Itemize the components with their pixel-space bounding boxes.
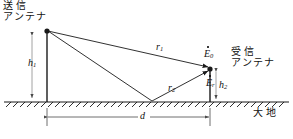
er-symbol-wrap: E bbox=[206, 78, 212, 88]
h2-subscript: 2 bbox=[224, 83, 227, 90]
rx-antenna-caption: 受信 アンテナ bbox=[231, 47, 275, 68]
e0-phasor-dot-icon bbox=[207, 46, 209, 48]
direct-ray-r1 bbox=[48, 31, 208, 67]
rx-antenna-node bbox=[207, 66, 212, 71]
r2-subscript: 2 bbox=[172, 86, 175, 93]
er-subscript: r bbox=[212, 81, 215, 88]
er-symbol: E bbox=[206, 77, 212, 88]
er-phasor-dot-icon bbox=[209, 75, 211, 77]
e0-field-label: E0 bbox=[204, 49, 213, 60]
tx-antenna-caption-line2: アンテナ bbox=[3, 12, 47, 22]
tx-antenna-node bbox=[44, 28, 49, 33]
r1-subscript: 1 bbox=[160, 45, 163, 52]
ground-hatching bbox=[6, 102, 284, 107]
r2-label: r2 bbox=[168, 83, 175, 94]
rx-antenna-caption-line2: アンテナ bbox=[231, 58, 275, 68]
earth-label: 大地 bbox=[253, 108, 279, 118]
reflected-ray-incident bbox=[48, 31, 152, 101]
rx-antenna-caption-line1: 受信 bbox=[231, 47, 275, 57]
figure-canvas: 送信 アンテナ 受信 アンテナ 大地 h1 h2 d r1 r2 E0 Er bbox=[0, 0, 293, 139]
h1-label: h1 bbox=[28, 58, 36, 69]
r1-label: r1 bbox=[156, 42, 163, 53]
tx-antenna-caption: 送信 アンテナ bbox=[3, 1, 47, 22]
er-field-label: Er bbox=[206, 78, 215, 89]
distance-label: d bbox=[140, 111, 145, 121]
tx-antenna-caption-line1: 送信 bbox=[3, 1, 47, 11]
reflected-ray-outgoing bbox=[152, 71, 208, 101]
e0-subscript: 0 bbox=[210, 52, 213, 59]
e0-symbol-wrap: E bbox=[204, 49, 210, 59]
h1-subscript: 1 bbox=[33, 61, 36, 68]
h2-label: h2 bbox=[219, 80, 227, 91]
e0-symbol: E bbox=[204, 48, 210, 59]
